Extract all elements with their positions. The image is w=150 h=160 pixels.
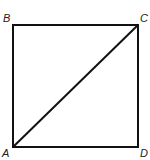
diagonal-ac [13,25,138,147]
vertex-label-a: A [1,147,9,159]
vertex-label-b: B [3,12,10,24]
vertex-label-d: D [140,147,148,159]
vertex-label-c: C [140,12,148,24]
square-diagram: B C A D [0,0,150,160]
